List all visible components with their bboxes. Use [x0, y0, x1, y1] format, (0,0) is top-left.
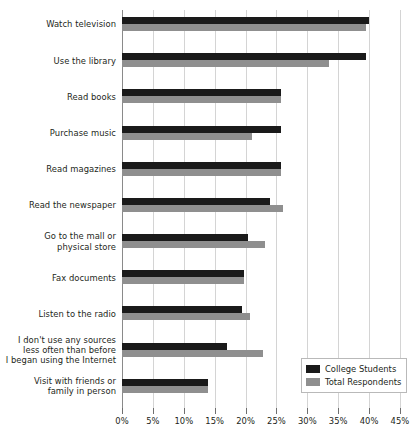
bar-group: [122, 227, 400, 263]
x-axis-tick: [369, 408, 370, 414]
bar-college-students: [122, 198, 270, 205]
bar-total-respondents: [122, 277, 244, 284]
y-axis-label: Read the newspaper: [0, 200, 116, 210]
y-axis-label-line: Visit with friends or: [0, 376, 116, 386]
y-axis-label-line: Listen to the radio: [0, 309, 116, 319]
bar-college-students: [122, 162, 281, 169]
x-axis-tick: [307, 408, 308, 414]
bar-total-respondents: [122, 205, 283, 212]
bar-group: [122, 263, 400, 299]
bar-college-students: [122, 270, 244, 277]
y-axis-label: Listen to the radio: [0, 309, 116, 319]
bar-college-students: [122, 234, 248, 241]
bar-college-students: [122, 343, 227, 350]
y-axis-label: Use the library: [0, 56, 116, 66]
bar-college-students: [122, 126, 281, 133]
y-axis-label-line: Go to the mall or: [0, 231, 116, 241]
x-axis-tick-label: 0%: [115, 416, 128, 426]
gridline-45%: [400, 10, 401, 408]
y-axis-label: Purchase music: [0, 128, 116, 138]
x-axis-tick: [153, 408, 154, 414]
bar-rows: [122, 10, 400, 408]
y-axis-label: Watch television: [0, 19, 116, 29]
bar-total-respondents: [122, 60, 329, 67]
horizontal-bar-chart: Watch televisionUse the libraryRead book…: [0, 0, 419, 438]
bar-college-students: [122, 379, 208, 386]
x-axis-tick: [276, 408, 277, 414]
x-axis-tick-label: 40%: [360, 416, 379, 426]
x-axis: 0%5%10%15%20%25%30%35%40%45%: [122, 408, 400, 438]
x-axis-tick-label: 10%: [174, 416, 193, 426]
legend-label: Total Respondents: [325, 378, 401, 387]
x-axis-tick: [246, 408, 247, 414]
y-axis-label-line: physical store: [0, 242, 116, 252]
x-axis-tick-label: 25%: [267, 416, 286, 426]
bar-group: [122, 155, 400, 191]
bar-group: [122, 119, 400, 155]
y-axis-label: Go to the mall orphysical store: [0, 231, 116, 251]
x-axis-tick: [122, 408, 123, 414]
bar-group: [122, 191, 400, 227]
bar-group: [122, 10, 400, 46]
bar-college-students: [122, 306, 242, 313]
y-axis-label-line: Purchase music: [0, 128, 116, 138]
x-axis-tick-label: 5%: [146, 416, 159, 426]
bar-total-respondents: [122, 96, 281, 103]
y-axis-label-line: Read books: [0, 92, 116, 102]
bar-total-respondents: [122, 350, 263, 357]
legend-label: College Students: [325, 365, 396, 374]
bar-college-students: [122, 89, 281, 96]
y-axis-label-line: Read the newspaper: [0, 200, 116, 210]
x-axis-tick: [400, 408, 401, 414]
bar-total-respondents: [122, 169, 281, 176]
y-axis-label: Visit with friends orfamily in person: [0, 376, 116, 396]
bar-college-students: [122, 17, 369, 24]
y-axis-label-line: Watch television: [0, 19, 116, 29]
bar-total-respondents: [122, 133, 252, 140]
x-axis-tick-label: 15%: [205, 416, 224, 426]
y-axis-label-line: Fax documents: [0, 273, 116, 283]
y-axis-label: Read magazines: [0, 164, 116, 174]
x-axis-tick: [184, 408, 185, 414]
bar-group: [122, 82, 400, 118]
y-axis-label: Fax documents: [0, 273, 116, 283]
x-axis-tick-label: 30%: [298, 416, 317, 426]
x-axis-tick: [338, 408, 339, 414]
x-axis-tick-label: 20%: [236, 416, 255, 426]
y-axis-label-line: I don't use any sources: [0, 335, 116, 345]
legend-swatch-total: [306, 378, 320, 386]
legend-item: College Students: [306, 363, 402, 375]
bar-college-students: [122, 53, 366, 60]
legend-item: Total Respondents: [306, 376, 402, 388]
y-axis-label-line: Read magazines: [0, 164, 116, 174]
legend-swatch-college: [306, 365, 320, 373]
x-axis-tick-label: 35%: [329, 416, 348, 426]
y-axis-category-labels: Watch televisionUse the libraryRead book…: [0, 10, 116, 408]
y-axis-label: Read books: [0, 92, 116, 102]
y-axis-label-line: family in person: [0, 386, 116, 396]
bar-group: [122, 299, 400, 335]
plot-area: [122, 10, 400, 408]
chart-legend: College StudentsTotal Respondents: [301, 358, 407, 393]
bar-total-respondents: [122, 241, 265, 248]
y-axis-label-line: I began using the Internet: [0, 355, 116, 365]
x-axis-tick-label: 45%: [391, 416, 410, 426]
y-axis-label: I don't use any sourcesless often than b…: [0, 335, 116, 366]
bar-total-respondents: [122, 24, 366, 31]
y-axis-label-line: Use the library: [0, 56, 116, 66]
y-axis-label-line: less often than before: [0, 345, 116, 355]
bar-group: [122, 46, 400, 82]
x-axis-tick: [215, 408, 216, 414]
bar-total-respondents: [122, 313, 250, 320]
bar-total-respondents: [122, 386, 208, 393]
